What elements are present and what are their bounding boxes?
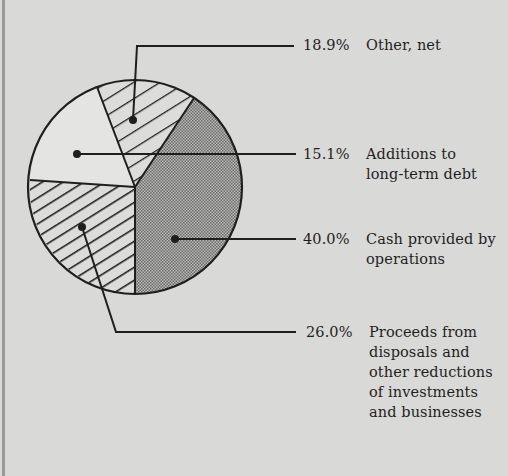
label-proceeds: 26.0% Proceeds from disposals and other … <box>306 322 493 422</box>
label-additions-line-2: long-term debt <box>366 164 477 184</box>
pct-other-net: 18.9% <box>303 35 366 55</box>
label-proceeds-line-2: disposals and <box>369 342 493 362</box>
label-additions-line-1: Additions to <box>366 144 477 164</box>
label-cash-line-2: operations <box>366 249 496 269</box>
slice-proceeds-disposals <box>30 180 135 294</box>
dot-other-net <box>129 116 137 124</box>
label-proceeds-line-5: and businesses <box>369 402 493 422</box>
dot-additions <box>73 150 81 158</box>
label-other-net-line-1: Other, net <box>366 35 441 55</box>
label-additions: 15.1% Additions to long-term debt <box>303 144 477 184</box>
pct-additions: 15.1% <box>303 144 366 164</box>
pct-proceeds: 26.0% <box>306 322 369 342</box>
dot-cash <box>171 235 179 243</box>
label-cash-line-1: Cash provided by <box>366 229 496 249</box>
label-other-net: 18.9% Other, net <box>303 35 441 55</box>
label-proceeds-line-1: Proceeds from <box>369 322 493 342</box>
label-proceeds-line-3: other reductions <box>369 362 493 382</box>
label-proceeds-line-4: of investments <box>369 382 493 402</box>
dot-proceeds <box>78 223 86 231</box>
label-cash: 40.0% Cash provided by operations <box>303 229 496 269</box>
pct-cash: 40.0% <box>303 229 366 249</box>
